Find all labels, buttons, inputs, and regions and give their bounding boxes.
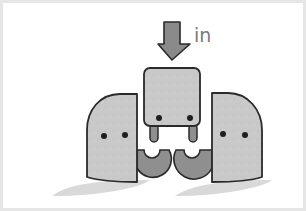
right-connector-cup <box>174 150 212 179</box>
down-arrow-icon <box>158 22 190 60</box>
center-block-eye <box>156 115 162 121</box>
center-block-eye <box>187 115 193 121</box>
right-block-eye <box>242 132 248 138</box>
left-block <box>87 94 137 182</box>
left-block-eye <box>101 133 107 139</box>
right-block-eye <box>220 131 226 137</box>
left-connector-cup <box>137 150 171 177</box>
insert-label: in <box>194 26 211 45</box>
block-insertion-illustration <box>0 0 306 211</box>
shadows <box>52 180 272 196</box>
left-block-eye <box>122 132 128 138</box>
right-block <box>212 93 262 182</box>
center-block <box>144 68 200 126</box>
